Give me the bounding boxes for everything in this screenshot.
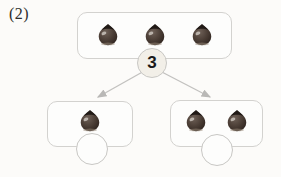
total-label: 3 (147, 53, 156, 73)
problem-number-label: (2) (9, 5, 29, 23)
chestnut-icon (189, 22, 215, 48)
worksheet-diagram: (2) 3 (0, 0, 281, 177)
chestnut-icon (224, 108, 250, 134)
chestnut-icon (77, 108, 103, 134)
total-circle: 3 (137, 48, 167, 78)
chestnut-icon (142, 22, 168, 48)
left-answer-circle[interactable] (76, 133, 108, 165)
right-answer-circle[interactable] (201, 134, 233, 166)
chestnut-icon (95, 22, 121, 48)
left-arrow (98, 70, 146, 97)
chestnut-icon (183, 108, 209, 134)
right-arrow (158, 70, 210, 97)
